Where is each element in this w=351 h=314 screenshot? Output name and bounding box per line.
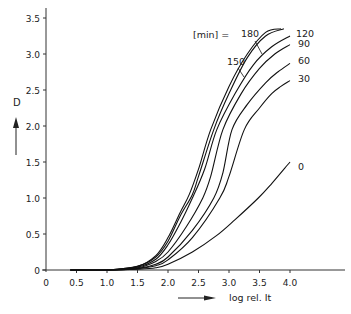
y-tick-label: 2.0 bbox=[26, 122, 41, 132]
legend-title: [min] = bbox=[193, 29, 229, 40]
curve-90-min bbox=[70, 45, 290, 271]
y-tick-label: 1.0 bbox=[26, 194, 41, 204]
curve-label-60: 60 bbox=[298, 55, 310, 66]
x-tick-label: 1.0 bbox=[100, 278, 115, 288]
y-tick-label: 3.5 bbox=[26, 14, 40, 24]
x-tick-label: 2.5 bbox=[191, 278, 205, 288]
y-axis-arrow-icon bbox=[13, 117, 19, 155]
y-ticks: 00.51.01.52.02.53.03.5 bbox=[26, 14, 46, 276]
curve-label-30: 30 bbox=[298, 73, 310, 84]
y-tick-label: 2.5 bbox=[26, 86, 40, 96]
x-axis-arrow-icon bbox=[178, 296, 216, 301]
y-axis-label: D bbox=[13, 97, 21, 108]
curve-label-150: 150 bbox=[227, 56, 245, 67]
x-ticks: 00.51.01.52.02.53.03.54.0 bbox=[43, 270, 297, 288]
x-tick-label: 3.5 bbox=[252, 278, 266, 288]
x-tick-label: 1.5 bbox=[130, 278, 144, 288]
y-tick-label: 0 bbox=[34, 266, 40, 276]
y-tick-label: 0.5 bbox=[26, 230, 40, 240]
curve-180-min bbox=[70, 29, 281, 270]
y-tick-label: 3.0 bbox=[26, 50, 41, 60]
curve-label-180: 180 bbox=[241, 28, 259, 39]
x-axis-label: log rel. It bbox=[229, 292, 272, 303]
curve-label-90: 90 bbox=[298, 38, 310, 49]
curve-150-min bbox=[70, 29, 284, 270]
x-tick-label: 2.0 bbox=[161, 278, 176, 288]
x-tick-label: 0 bbox=[43, 278, 49, 288]
curve-60-min bbox=[70, 63, 290, 270]
y-tick-label: 1.5 bbox=[26, 158, 40, 168]
x-tick-label: 3.0 bbox=[222, 278, 237, 288]
curve-label-0: 0 bbox=[298, 161, 304, 172]
characteristic-curves-chart: 00.51.01.52.02.53.03.5 00.51.01.52.02.53… bbox=[0, 0, 351, 314]
curves bbox=[70, 29, 290, 270]
x-tick-label: 4.0 bbox=[283, 278, 298, 288]
x-tick-label: 0.5 bbox=[69, 278, 83, 288]
curve-30-min bbox=[70, 81, 290, 270]
